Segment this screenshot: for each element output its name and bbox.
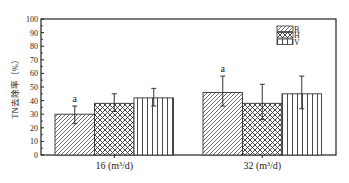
- y-tick-label: 60: [30, 69, 38, 78]
- y-tick-label: 0: [34, 151, 38, 160]
- legend-swatch-V: [277, 39, 293, 45]
- y-tick-label: 30: [30, 110, 38, 119]
- legend-label-V: V: [294, 38, 300, 47]
- x-axis: 16 (m³/d)32 (m³/d): [95, 155, 281, 172]
- bar-chart: aa 0102030405060708090100 16 (m³/d)32 (m…: [0, 0, 349, 183]
- y-tick-label: 100: [26, 15, 38, 24]
- y-tick-label: 70: [30, 56, 38, 65]
- y-tick-label: 90: [30, 29, 38, 38]
- legend-swatch-H: [277, 33, 293, 39]
- y-tick-label: 50: [30, 83, 38, 92]
- significance-label: a: [73, 93, 78, 104]
- significance-label: a: [221, 63, 226, 74]
- legend-swatch-B: [277, 26, 293, 32]
- y-tick-label: 20: [30, 124, 38, 133]
- legend: BHV: [277, 25, 300, 47]
- x-category-label: 32 (m³/d): [243, 160, 281, 172]
- x-category-label: 16 (m³/d): [95, 160, 133, 172]
- y-tick-label: 40: [30, 97, 38, 106]
- y-tick-label: 10: [30, 137, 38, 146]
- y-tick-label: 80: [30, 42, 38, 51]
- y-axis-label: TN去除率（%）: [10, 55, 20, 118]
